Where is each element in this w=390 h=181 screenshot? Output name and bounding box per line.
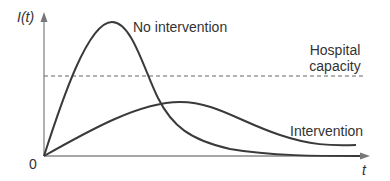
y-axis-label: I(t) [17,9,34,25]
x-axis-arrow-icon [360,153,370,160]
hospital-capacity-label-line1: Hospital [300,42,370,58]
y-axis-arrow-icon [41,12,48,22]
origin-label: 0 [29,156,37,172]
x-axis-label: t [362,162,366,178]
hospital-capacity-label: Hospital capacity [300,42,370,74]
no-intervention-label: No intervention [133,19,227,35]
hospital-capacity-label-line2: capacity [300,58,370,74]
intervention-label: Intervention [290,123,363,139]
